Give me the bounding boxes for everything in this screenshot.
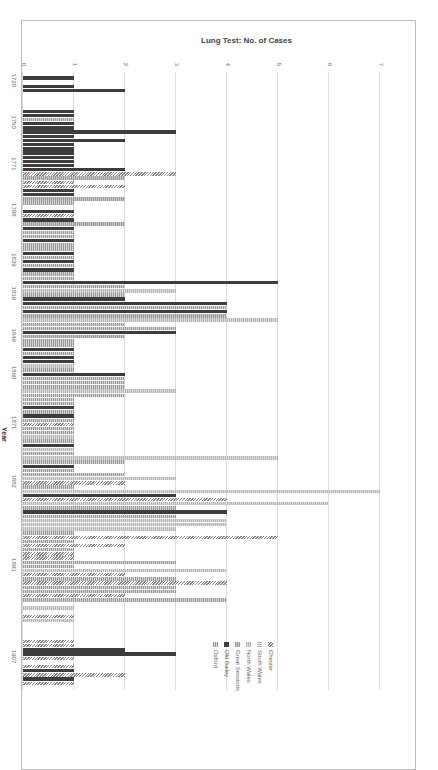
- bar-old-bailey: [23, 193, 74, 196]
- bar-oxford: [23, 515, 176, 518]
- bar-old-bailey: [23, 406, 74, 409]
- bar-old-bailey: [23, 210, 74, 213]
- bar-old-bailey: [23, 360, 74, 363]
- bar-chester: [23, 544, 125, 547]
- y-tick-label: 7: [378, 54, 384, 66]
- bar-chester: [23, 185, 125, 188]
- bar-oxford: [23, 410, 74, 413]
- bar-old-bailey: [23, 147, 74, 150]
- gridline: [379, 72, 380, 690]
- bar-oxford: [23, 531, 74, 534]
- bar-north-wales: [23, 477, 176, 480]
- bar-great-sessions: [23, 222, 125, 225]
- bar-chester: [23, 594, 125, 597]
- bar-oxford: [23, 243, 74, 246]
- x-tick-label: 1882: [11, 475, 17, 488]
- legend-item-north-wales: North Wales: [246, 642, 252, 683]
- bar-oxford: [23, 264, 74, 267]
- legend-item-great-sessions: Great Sessions: [235, 642, 241, 691]
- bar-old-bailey: [23, 164, 74, 167]
- bar-oxford: [23, 343, 74, 346]
- bar-old-bailey: [23, 302, 227, 305]
- bar-oxford: [23, 201, 74, 204]
- bar-old-bailey: [23, 510, 227, 513]
- bar-oxford: [23, 431, 74, 434]
- x-axis-label: Year: [1, 427, 8, 442]
- bar-great-sessions: [23, 335, 125, 338]
- legend-label: Chester: [268, 650, 274, 671]
- bar-oxford: [23, 469, 74, 472]
- bar-old-bailey: [23, 297, 125, 300]
- bar-oxford: [23, 247, 74, 250]
- bar-old-bailey: [23, 348, 74, 351]
- bar-oxford: [23, 118, 74, 121]
- bar-north-wales: [23, 619, 74, 622]
- y-axis-label: Lung Test: No. of Cases: [201, 36, 292, 45]
- bar-old-bailey: [23, 239, 74, 242]
- bar-north-wales: [23, 289, 176, 292]
- bar-chester: [23, 615, 74, 618]
- bar-north-wales: [23, 527, 176, 530]
- bar-oxford: [23, 452, 74, 455]
- legend-label: South Wales: [257, 650, 263, 684]
- bar-old-bailey: [23, 652, 176, 655]
- legend-label: North Wales: [246, 650, 252, 683]
- bar-oxford: [23, 565, 74, 568]
- bar-old-bailey: [23, 151, 74, 154]
- bar-oxford: [23, 506, 176, 509]
- bar-north-wales: [23, 606, 74, 609]
- bar-chester: [23, 556, 74, 559]
- bar-great-sessions: [23, 314, 227, 317]
- bar-chester: [23, 657, 74, 660]
- bar-old-bailey: [23, 444, 74, 447]
- bar-oxford: [23, 460, 125, 463]
- bar-oxford: [23, 323, 125, 326]
- bar-old-bailey: [23, 414, 74, 417]
- bar-oxford: [23, 306, 227, 309]
- rotated-chart: Lung Test: No. of Cases 0123456717201750…: [21, 20, 416, 770]
- bar-north-wales: [23, 364, 74, 367]
- bar-old-bailey: [23, 139, 125, 142]
- bar-old-bailey: [23, 356, 74, 359]
- x-tick-label: 1720: [11, 74, 17, 87]
- bar-oxford: [23, 586, 176, 589]
- bar-north-wales: [23, 435, 74, 438]
- bar-old-bailey: [23, 160, 74, 163]
- bar-oxford: [23, 272, 74, 275]
- bar-chester: [23, 214, 74, 217]
- bar-oxford: [23, 439, 74, 442]
- x-tick-label: 1893: [11, 558, 17, 571]
- bar-north-wales: [23, 448, 74, 451]
- legend-swatch-icon: [247, 642, 252, 647]
- bar-old-bailey: [23, 168, 125, 171]
- bar-north-wales: [23, 569, 227, 572]
- y-tick-label: 1: [72, 54, 78, 66]
- bar-old-bailey: [23, 669, 74, 672]
- bar-great-sessions: [23, 176, 125, 179]
- legend: ChesterSouth WalesNorth WalesGreat Sessi…: [194, 642, 274, 732]
- bar-old-bailey: [23, 135, 74, 138]
- gridline: [277, 72, 278, 690]
- bar-old-bailey: [23, 218, 74, 221]
- bar-oxford: [23, 277, 74, 280]
- bar-old-bailey: [23, 143, 74, 146]
- bar-oxford: [23, 540, 74, 543]
- bar-north-wales: [23, 519, 227, 522]
- bar-oxford: [23, 548, 74, 551]
- legend-label: Old Bailey: [224, 650, 230, 677]
- bar-oxford: [23, 339, 74, 342]
- bar-north-wales: [23, 389, 176, 392]
- y-tick-label: 3: [174, 54, 180, 66]
- bar-oxford: [23, 402, 74, 405]
- bar-oxford: [23, 381, 125, 384]
- bar-chester: [23, 581, 227, 584]
- bar-chester: [23, 172, 176, 175]
- bar-oxford: [23, 598, 227, 601]
- x-tick-label: 1849: [11, 328, 17, 341]
- y-tick-label: 2: [123, 54, 129, 66]
- x-tick-label: 1829: [11, 253, 17, 266]
- bar-old-bailey: [23, 331, 176, 334]
- bar-chester: [23, 665, 74, 668]
- legend-item-south-wales: South Wales: [257, 642, 263, 684]
- bar-oxford: [23, 473, 125, 476]
